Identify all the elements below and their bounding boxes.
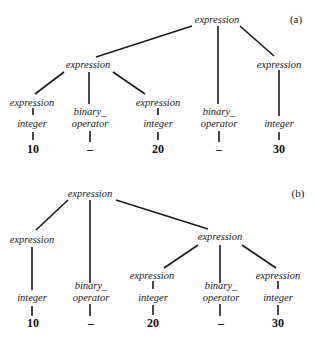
- b-right-minus: –: [217, 316, 225, 330]
- a-value-20: 20: [152, 142, 164, 156]
- panel-a: expression (a) expression expression int…: [10, 13, 303, 156]
- b-right-left-integer: integer: [138, 292, 169, 303]
- panel-b: expression (b) expression integer 10 bin…: [10, 187, 305, 330]
- b-value-30: 30: [272, 316, 284, 330]
- a-mid-binary-operator-line1: binary_: [203, 106, 236, 117]
- b-value-10: 10: [27, 316, 39, 330]
- b-right-left-expression: expression: [130, 270, 175, 281]
- parse-tree-figure: expression (a) expression expression int…: [0, 0, 317, 339]
- b-mid-minus: –: [87, 316, 95, 330]
- a-left-minus: –: [86, 142, 94, 156]
- b-left-integer: integer: [17, 292, 48, 303]
- a-left-binary-operator-line2: operator: [72, 118, 110, 129]
- a-panel-caption: (a): [290, 13, 303, 26]
- b-right-binary-operator-line2: operator: [203, 292, 241, 303]
- a-right-integer: integer: [264, 118, 295, 129]
- a-left-left-integer: integer: [17, 118, 48, 129]
- b-right-expression: expression: [198, 231, 243, 242]
- b-panel-caption: (b): [292, 187, 305, 200]
- a-left-right-integer: integer: [143, 118, 174, 129]
- a-left-right-expression: expression: [136, 97, 181, 108]
- a-mid-minus: –: [215, 142, 223, 156]
- a-root-expression: expression: [195, 14, 240, 25]
- b-root-expression: expression: [68, 188, 113, 199]
- a-left-binary-operator-line1: binary_: [74, 106, 107, 117]
- b-mid-binary-operator-line1: binary_: [75, 280, 108, 291]
- b-right-binary-operator-line1: binary_: [205, 280, 238, 291]
- b-right-right-expression: expression: [256, 270, 301, 281]
- a-mid-binary-operator-line2: operator: [201, 118, 239, 129]
- b-left-expression: expression: [10, 234, 55, 245]
- a-left-left-expression: expression: [10, 97, 55, 108]
- a-left-expression: expression: [66, 59, 111, 70]
- a-right-expression: expression: [257, 59, 302, 70]
- b-value-20: 20: [147, 316, 159, 330]
- a-value-30: 30: [273, 142, 285, 156]
- b-mid-binary-operator-line2: operator: [73, 292, 111, 303]
- a-value-10: 10: [27, 142, 39, 156]
- b-right-right-integer: integer: [263, 292, 294, 303]
